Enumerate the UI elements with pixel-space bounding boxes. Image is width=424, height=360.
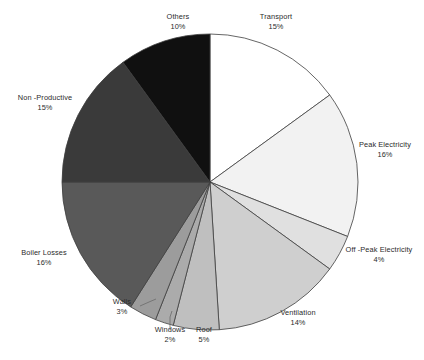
slice-label-off-peak-electricity: Off -Peak Electricity 4% — [334, 245, 424, 265]
slice-label-others-value: 10% — [144, 22, 212, 32]
pie-chart-figure: Others 10% Transport 15% Peak Electricit… — [0, 0, 424, 360]
slice-label-peak-electricity-name: Peak Electricity — [346, 140, 424, 150]
slice-label-walls: Walls 3% — [102, 297, 142, 317]
slice-label-others-name: Others — [144, 12, 212, 22]
slice-label-walls-value: 3% — [102, 307, 142, 317]
slice-label-windows-value: 2% — [139, 335, 201, 345]
slice-label-walls-name: Walls — [102, 297, 142, 307]
pie-slices-group — [62, 34, 358, 330]
slice-label-windows: Windows 2% — [139, 325, 201, 345]
slice-label-ventilation-name: Ventilation — [262, 308, 334, 318]
slice-label-peak-electricity-value: 16% — [346, 150, 424, 160]
slice-label-off-peak-electricity-value: 4% — [334, 255, 424, 265]
slice-label-boiler-losses-name: Boiler Losses — [6, 248, 82, 258]
slice-label-windows-name: Windows — [139, 325, 201, 335]
slice-label-ventilation-value: 14% — [262, 318, 334, 328]
slice-label-ventilation: Ventilation 14% — [262, 308, 334, 328]
pie-chart-canvas — [0, 0, 424, 360]
slice-label-transport-value: 15% — [236, 22, 316, 32]
slice-label-non-productive-value: 15% — [4, 103, 86, 113]
slice-label-off-peak-electricity-name: Off -Peak Electricity — [334, 245, 424, 255]
slice-label-non-productive-name: Non -Productive — [4, 93, 86, 103]
slice-label-peak-electricity: Peak Electricity 16% — [346, 140, 424, 160]
slice-label-transport: Transport 15% — [236, 12, 316, 32]
slice-label-boiler-losses-value: 16% — [6, 258, 82, 268]
slice-label-transport-name: Transport — [236, 12, 316, 22]
slice-label-non-productive: Non -Productive 15% — [4, 93, 86, 113]
slice-label-boiler-losses: Boiler Losses 16% — [6, 248, 82, 268]
slice-label-others: Others 10% — [144, 12, 212, 32]
